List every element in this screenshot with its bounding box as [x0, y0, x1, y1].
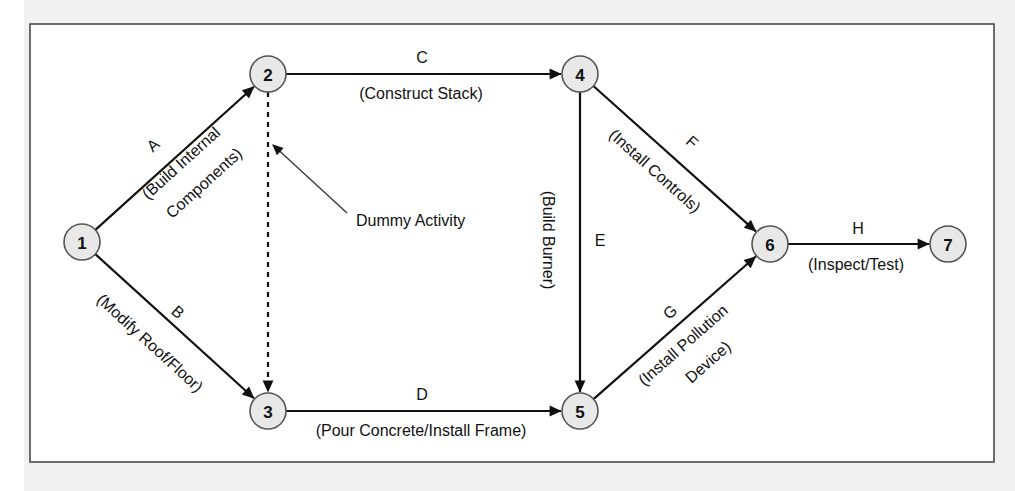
- activity-description-d: (Pour Concrete/Install Frame): [316, 422, 527, 439]
- event-node-1: 1: [64, 224, 100, 260]
- event-node-3: 3: [250, 393, 286, 429]
- node-number: 5: [575, 403, 584, 422]
- event-node-6: 6: [752, 226, 788, 262]
- activity-description-c: (Construct Stack): [359, 85, 483, 102]
- activity-letter-h: H: [852, 220, 864, 237]
- node-number: 7: [943, 236, 952, 255]
- node-number: 1: [77, 234, 86, 253]
- event-node-2: 2: [250, 56, 286, 92]
- node-number: 2: [263, 66, 272, 85]
- activity-letter-d: D: [416, 386, 428, 403]
- activity-letter-c: C: [416, 49, 428, 66]
- node-number: 6: [765, 236, 774, 255]
- activity-description-h: (Inspect/Test): [808, 256, 904, 273]
- event-node-7: 7: [930, 226, 966, 262]
- network-diagram: A(Build InternalComponents)B(Modify Roof…: [0, 0, 1015, 491]
- node-number: 4: [575, 66, 585, 85]
- activity-letter-e: E: [595, 232, 606, 249]
- dummy-activity-label: Dummy Activity: [356, 212, 465, 229]
- activity-description-e: (Build Burner): [540, 191, 557, 290]
- node-number: 3: [263, 403, 272, 422]
- event-node-5: 5: [562, 393, 598, 429]
- event-node-4: 4: [562, 56, 598, 92]
